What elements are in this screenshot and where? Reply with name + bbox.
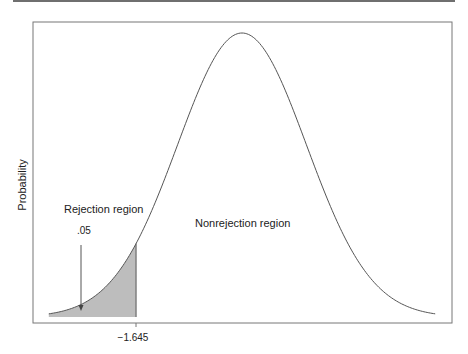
y-axis-label: Probability: [16, 159, 28, 211]
nonrejection-region-label: Nonrejection region: [195, 217, 290, 229]
normal-distribution-chart: −1.645 Rejection region .05 Nonrejection…: [0, 0, 468, 354]
rejection-region-shade: [49, 244, 136, 317]
x-tick-label: −1.645: [118, 332, 149, 343]
alpha-label: .05: [77, 225, 91, 236]
plot-frame: [33, 22, 452, 323]
rejection-region-label: Rejection region: [64, 203, 144, 215]
normal-curve: [49, 33, 435, 314]
